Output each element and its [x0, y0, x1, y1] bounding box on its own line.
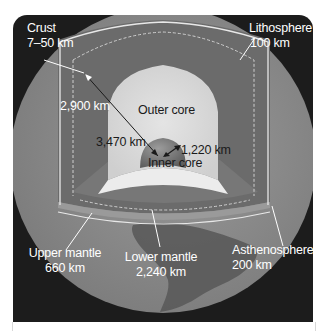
upper-mantle-label: Upper mantle 660 km — [28, 246, 102, 276]
lithosphere-label: Lithosphere 100 km — [249, 21, 312, 51]
crust-label: Crust 7–50 km — [27, 21, 74, 51]
inner-core-label: Inner core — [148, 156, 202, 171]
caption-strip — [12, 322, 316, 331]
mantle-depth-label: 2,900 km — [60, 99, 110, 114]
lower-mantle-label: Lower mantle 2,240 km — [124, 250, 198, 280]
asthenosphere-label: Asthenosphere 200 km — [232, 243, 314, 273]
outer-core-radius-label: 3,470 km — [96, 135, 146, 150]
outer-core-label: Outer core — [138, 103, 195, 118]
